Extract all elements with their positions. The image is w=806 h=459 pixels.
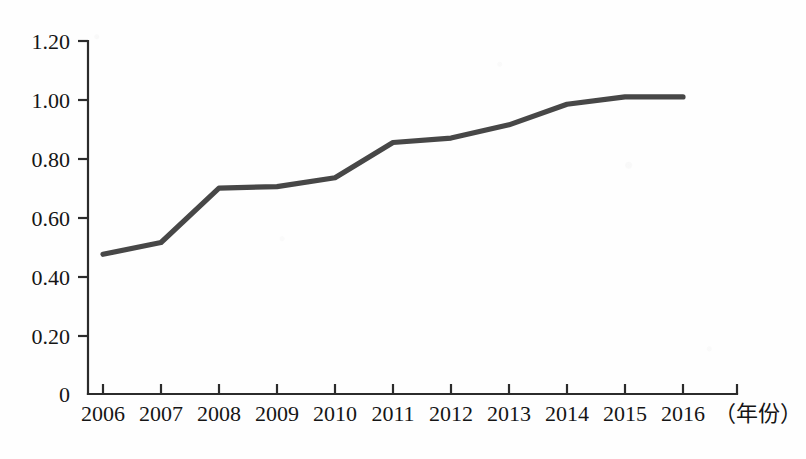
y-label-0.60: 0.60 — [32, 206, 71, 231]
x-label-2016: 2016 — [661, 401, 705, 426]
y-label-0.40: 0.40 — [32, 265, 71, 290]
x-axis-caption: （年份） — [714, 401, 802, 426]
y-label-0: 0 — [59, 382, 70, 407]
y-tick-marks — [78, 41, 88, 336]
x-tick-marks — [103, 384, 737, 394]
y-label-1.00: 1.00 — [32, 88, 71, 113]
x-label-2008: 2008 — [197, 401, 241, 426]
x-tick-labels: 2006 2007 2008 2009 2010 2011 2012 2013 … — [81, 401, 705, 426]
x-label-2011: 2011 — [371, 401, 414, 426]
x-label-2007: 2007 — [139, 401, 183, 426]
chart-canvas: 1.20 1.00 0.80 0.60 0.40 0.20 0 2006 200… — [0, 0, 806, 459]
y-label-0.80: 0.80 — [32, 147, 71, 172]
x-label-2009: 2009 — [255, 401, 299, 426]
line-chart: 1.20 1.00 0.80 0.60 0.40 0.20 0 2006 200… — [0, 0, 806, 459]
y-tick-labels: 1.20 1.00 0.80 0.60 0.40 0.20 0 — [32, 29, 71, 407]
x-label-2010: 2010 — [313, 401, 357, 426]
x-label-2014: 2014 — [545, 401, 589, 426]
x-label-2015: 2015 — [603, 401, 647, 426]
x-label-2012: 2012 — [429, 401, 473, 426]
data-series-line — [103, 97, 683, 254]
y-label-1.20: 1.20 — [32, 29, 71, 54]
x-label-2006: 2006 — [81, 401, 125, 426]
y-label-0.20: 0.20 — [32, 324, 71, 349]
x-label-2013: 2013 — [487, 401, 531, 426]
